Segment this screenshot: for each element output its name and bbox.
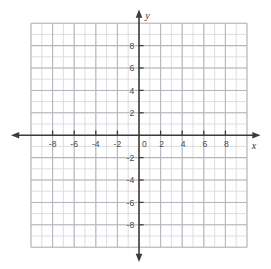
- x-axis-label: x: [251, 140, 257, 151]
- x-tick-label: 6: [202, 139, 207, 149]
- x-tick-label: -6: [70, 139, 78, 149]
- x-axis: [11, 132, 261, 139]
- y-axis-arrow-up: [136, 10, 143, 18]
- x-tick-label: -2: [114, 139, 122, 149]
- y-tick-label: 8: [129, 41, 134, 51]
- origin-label: 0: [142, 139, 147, 149]
- x-tick-label: 8: [224, 139, 229, 149]
- y-tick-label: 4: [129, 86, 134, 96]
- x-tick-label: -8: [49, 139, 57, 149]
- x-tick-label: 4: [181, 139, 186, 149]
- y-tick-label: 6: [129, 63, 134, 73]
- y-tick-label: -6: [127, 198, 135, 208]
- y-axis-arrow-down: [136, 254, 143, 262]
- coordinate-plane-canvas: -8 -6 -4 -2 2 4 6 8 8 6 4 2 -2 -4 -6 -8 …: [0, 0, 271, 269]
- x-tick-label: -4: [92, 139, 100, 149]
- y-tick-label: -4: [127, 175, 135, 185]
- x-axis-arrow-right: [252, 132, 260, 139]
- y-axis-label: y: [144, 10, 150, 21]
- y-tick-label: 2: [129, 108, 134, 118]
- y-tick-label: -8: [127, 220, 135, 230]
- coordinate-plane-figure: -8 -6 -4 -2 2 4 6 8 8 6 4 2 -2 -4 -6 -8 …: [0, 0, 271, 269]
- x-axis-arrow-left: [11, 132, 19, 139]
- x-tick-label: 2: [159, 139, 164, 149]
- y-tick-label: -2: [127, 153, 135, 163]
